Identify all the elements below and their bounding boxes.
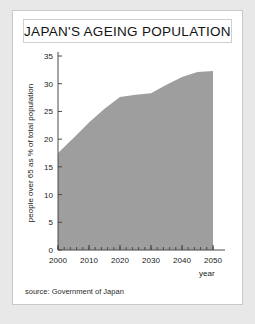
y-tick-label: 35 — [44, 52, 53, 61]
chart-plot-area: 200020102020203020402050 05101520253035 … — [13, 11, 244, 306]
x-tick-label: 2030 — [142, 256, 160, 265]
source-caption: source: Government of Japan — [25, 287, 124, 296]
y-tick-label: 5 — [49, 218, 54, 227]
y-tick-label: 25 — [44, 107, 53, 116]
y-tick-label: 20 — [44, 135, 53, 144]
y-axis-label: people over 65 as % of total population — [26, 84, 35, 222]
y-axis-tick-labels: 05101520253035 — [44, 52, 53, 255]
x-tick-label: 2050 — [204, 256, 222, 265]
area-chart-svg: 200020102020203020402050 05101520253035 … — [13, 11, 244, 306]
y-tick-label: 10 — [44, 191, 53, 200]
y-tick-label: 0 — [49, 246, 54, 255]
x-tick-label: 2000 — [49, 256, 67, 265]
y-axis-label-text: people over 65 as % of total population — [26, 84, 35, 222]
x-axis-tick-labels: 200020102020203020402050 — [49, 256, 222, 265]
x-tick-label: 2040 — [173, 256, 191, 265]
y-tick-label: 30 — [44, 80, 53, 89]
x-axis-label: year — [199, 269, 215, 278]
x-tick-label: 2010 — [80, 256, 98, 265]
x-tick-label: 2020 — [111, 256, 129, 265]
area-fill-shape — [58, 71, 213, 250]
screenshot-root: JAPAN'S AGEING POPULATION 20002010202020… — [0, 0, 255, 324]
chart-card: JAPAN'S AGEING POPULATION 20002010202020… — [12, 10, 243, 305]
area-series — [58, 71, 213, 250]
y-tick-label: 15 — [44, 163, 53, 172]
